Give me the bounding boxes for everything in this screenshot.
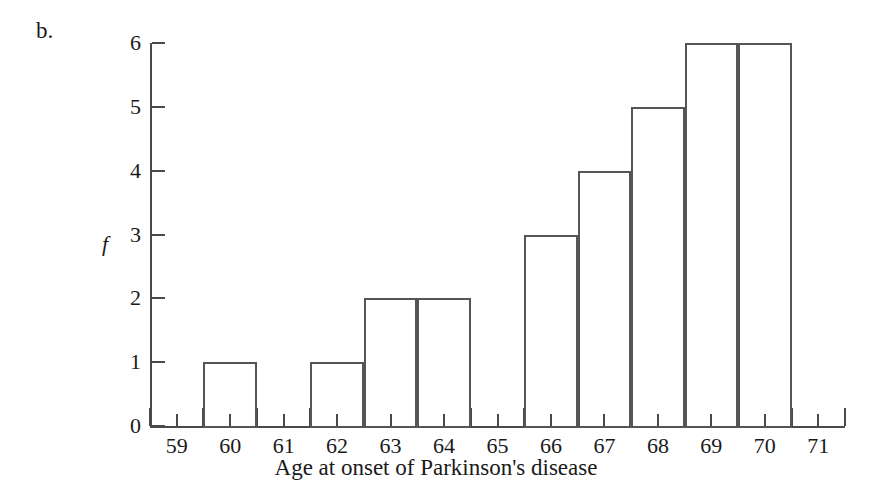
plot-area: 0123456 59606162636465666768697071 (150, 43, 845, 428)
y-tick-mark (152, 170, 165, 172)
histogram-bar (685, 43, 738, 428)
x-bin-boundary-tick (844, 408, 846, 426)
y-tick-mark (152, 234, 165, 236)
y-tick-label: 0 (130, 413, 141, 439)
histogram-bar (310, 362, 363, 428)
part-label: b. (36, 18, 53, 44)
x-bin-boundary-tick (149, 408, 151, 426)
histogram-bar (524, 235, 577, 429)
histogram-bar (578, 171, 631, 428)
y-tick-mark (152, 425, 165, 427)
y-tick-label: 6 (130, 30, 141, 56)
y-tick-mark (152, 297, 165, 299)
x-tick-mark (817, 414, 819, 426)
y-tick-label: 5 (130, 94, 141, 120)
y-tick-label: 1 (130, 349, 141, 375)
y-axis-line (150, 43, 152, 428)
histogram-bar (417, 298, 470, 428)
y-tick-mark (152, 106, 165, 108)
x-tick-mark (176, 414, 178, 426)
x-tick-mark (283, 414, 285, 426)
y-tick-mark (152, 361, 165, 363)
y-tick-mark (152, 42, 165, 44)
histogram-bar (738, 43, 791, 428)
y-axis-title: f (102, 231, 108, 257)
histogram-bar (631, 107, 684, 428)
x-axis-title: Age at onset of Parkinson's disease (0, 455, 872, 481)
histogram-figure: b. f 0123456 59606162636465666768697071 … (0, 0, 872, 502)
histogram-bar (203, 362, 256, 428)
y-tick-label: 4 (130, 158, 141, 184)
y-tick-label: 2 (130, 285, 141, 311)
y-tick-label: 3 (130, 222, 141, 248)
x-tick-mark (497, 414, 499, 426)
histogram-bar (364, 298, 417, 428)
